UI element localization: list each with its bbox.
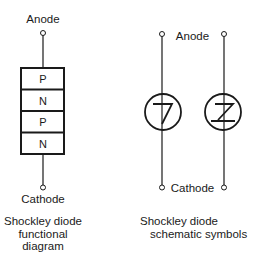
functional-cathode-label: Cathode [21,193,64,205]
layer-n1: N [39,95,47,107]
caption-line: Shockley diode [0,215,86,228]
caption-line: schematic symbols [140,228,252,241]
functional-anode-label: Anode [26,13,59,25]
schematic-anode-label: Anode [176,30,209,42]
layer-n2: N [39,138,47,150]
functional-caption: Shockley diode functional diagram [0,215,86,253]
caption-line: Shockley diode [140,215,252,228]
cathode-terminal-icon [41,185,46,190]
shockley-symbol-right [205,32,241,191]
anode-terminal-icon [160,32,165,37]
cathode-terminal-icon [222,185,227,190]
symbol-envelope-icon [145,94,181,130]
schematic-cathode-label: Cathode [171,182,214,194]
shockley-z-bar-icon [211,104,235,121]
anode-terminal-icon [41,31,46,36]
cathode-terminal-icon [160,185,165,190]
schematic-caption: Shockley diode schematic symbols [140,215,252,240]
shockley-symbol-left [145,32,181,191]
functional-diagram: Anode P N P N Cathode [21,13,65,205]
caption-line: functional [0,228,86,241]
layer-p2: P [39,116,46,128]
caption-line: diagram [0,240,86,253]
symbol-envelope-icon [205,94,241,130]
layer-p1: P [39,73,46,85]
schematic-symbols: Anode Cathode [145,30,241,194]
anode-terminal-icon [222,32,227,37]
